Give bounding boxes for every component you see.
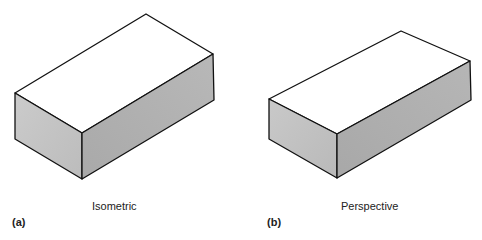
panel-label-a: (a) — [12, 216, 25, 228]
isometric-box — [15, 14, 214, 179]
caption-isometric: Isometric — [92, 200, 137, 212]
caption-perspective: Perspective — [341, 200, 398, 212]
panel-label-b: (b) — [267, 216, 281, 228]
figure-canvas — [0, 0, 482, 240]
perspective-box — [269, 31, 471, 178]
